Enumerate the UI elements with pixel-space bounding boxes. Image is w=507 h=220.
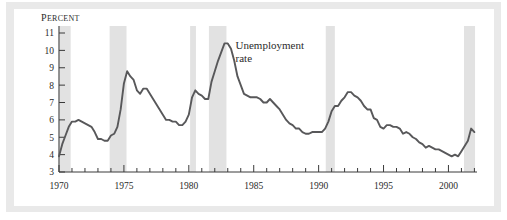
y-tick-label-3: 3	[49, 167, 54, 177]
y-tick-label-4: 4	[49, 150, 54, 160]
y-tick-label-7: 7	[49, 98, 54, 108]
x-tick-label-1995: 1995	[374, 181, 393, 191]
y-axis-tick-labels: 34567891011	[45, 28, 55, 177]
unemployment-rate-line-chart: 34567891011 1970197519801985199019952000…	[0, 0, 507, 220]
x-tick-label-1985: 1985	[244, 181, 263, 191]
recession-band-recession-1973-75	[110, 26, 127, 172]
y-tick-label-9: 9	[49, 63, 54, 73]
x-tick-label-2000: 2000	[439, 181, 458, 191]
y-axis-unit-rest: ERCENT	[47, 14, 80, 23]
series-annotation-line-1: Unemployment	[236, 39, 304, 51]
y-tick-label-10: 10	[45, 46, 55, 56]
y-tick-label-8: 8	[49, 81, 54, 91]
x-axis-minor-ticks	[72, 168, 474, 172]
recession-band-recession-1990-91	[326, 26, 335, 172]
series-annotation: Unemployment rate	[236, 39, 304, 64]
y-tick-label-11: 11	[45, 28, 54, 38]
y-tick-label-6: 6	[49, 115, 54, 125]
y-axis-unit-label: PERCENT	[41, 12, 80, 23]
x-tick-label-1990: 1990	[309, 181, 328, 191]
x-axis-tick-labels: 1970197519801985199019952000	[50, 181, 459, 191]
x-tick-label-1970: 1970	[50, 181, 69, 191]
series-annotation-line-2: rate	[236, 52, 253, 64]
x-tick-label-1975: 1975	[114, 181, 133, 191]
figure-container: 34567891011 1970197519801985199019952000…	[0, 0, 507, 220]
x-tick-label-1980: 1980	[179, 181, 198, 191]
chart-plot-area: 34567891011 1970197519801985199019952000…	[0, 0, 507, 220]
recession-band-recession-2001	[464, 26, 475, 172]
y-tick-label-5: 5	[49, 133, 54, 143]
